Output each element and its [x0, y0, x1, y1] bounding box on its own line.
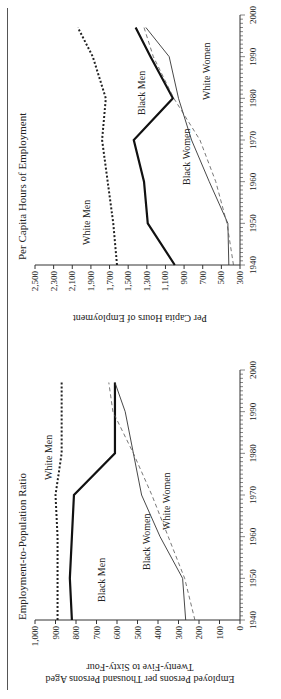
- svg-text:1,700: 1,700: [105, 271, 115, 292]
- axes: 3005007009001,1001,3001,5001,7001,9002,1…: [30, 6, 258, 292]
- svg-text:700: 700: [92, 626, 102, 640]
- svg-text:900: 900: [179, 271, 189, 285]
- svg-text:2,500: 2,500: [30, 271, 40, 292]
- svg-text:Black Men: Black Men: [136, 71, 147, 115]
- chart-title: Employment-to-Population Ratio: [16, 473, 28, 620]
- svg-text:900: 900: [51, 626, 61, 640]
- series-white-men: [56, 383, 62, 621]
- svg-text:Black Women: Black Women: [181, 129, 192, 186]
- svg-text:300: 300: [174, 626, 184, 640]
- svg-text:1970: 1970: [248, 486, 258, 505]
- svg-text:600: 600: [112, 626, 122, 640]
- svg-text:500: 500: [216, 271, 226, 285]
- svg-text:2,100: 2,100: [67, 271, 77, 292]
- y-axis-label: Per Capita Hours of Employment: [73, 313, 207, 324]
- svg-text:500: 500: [133, 626, 143, 640]
- series-white-women: [109, 383, 195, 621]
- svg-text:1940: 1940: [248, 611, 258, 630]
- svg-text:1,500: 1,500: [123, 271, 133, 292]
- svg-text:2000: 2000: [248, 6, 258, 25]
- svg-text:800: 800: [71, 626, 81, 640]
- series-black-men: [134, 28, 175, 266]
- svg-text:1980: 1980: [248, 444, 258, 463]
- svg-text:1,000: 1,000: [30, 626, 40, 647]
- svg-text:White Men: White Men: [43, 435, 54, 480]
- chart-employment-to-population: Employment-to-Population Ratio Employed …: [10, 360, 270, 690]
- svg-text:2000: 2000: [248, 361, 258, 380]
- svg-text:700: 700: [198, 271, 208, 285]
- page-rule: [7, 8, 8, 690]
- svg-text:Twenty-Five to Sixty-Four: Twenty-Five to Sixty-Four: [86, 662, 194, 673]
- chart-per-capita-hours: Per Capita Hours of Employment Per Capit…: [10, 5, 270, 335]
- series-black-women: [115, 383, 186, 621]
- svg-text:1950: 1950: [248, 214, 258, 233]
- svg-text:1980: 1980: [248, 89, 258, 108]
- svg-text:1970: 1970: [248, 131, 258, 150]
- svg-text:1990: 1990: [248, 47, 258, 66]
- svg-text:400: 400: [153, 626, 163, 640]
- svg-text:1940: 1940: [248, 256, 258, 275]
- svg-text:2,300: 2,300: [49, 271, 59, 292]
- svg-text:1990: 1990: [248, 402, 258, 421]
- svg-text:1,900: 1,900: [86, 271, 96, 292]
- svg-text:White Women: White Women: [161, 472, 172, 530]
- axes: 01002003004005006007008009001,0001940195…: [30, 361, 258, 647]
- svg-text:300: 300: [235, 271, 245, 285]
- svg-text:1,300: 1,300: [142, 271, 152, 292]
- svg-text:1960: 1960: [248, 172, 258, 191]
- svg-text:0: 0: [235, 626, 245, 631]
- y-axis-label: Employed Persons per Thousand Persons Ag…: [46, 662, 235, 685]
- chart-title: Per Capita Hours of Employment: [16, 113, 28, 260]
- series-lines: [56, 383, 195, 621]
- svg-text:Black Women: Black Women: [141, 514, 152, 571]
- svg-text:1960: 1960: [248, 527, 258, 546]
- svg-text:White Women: White Women: [201, 42, 212, 100]
- svg-text:200: 200: [194, 626, 204, 640]
- svg-text:Employed Persons per Thousand: Employed Persons per Thousand Persons Ag…: [46, 674, 235, 685]
- svg-text:White Men: White Men: [81, 200, 92, 245]
- series-black-men: [70, 383, 115, 621]
- svg-text:1,100: 1,100: [160, 271, 170, 292]
- svg-text:100: 100: [215, 626, 225, 640]
- svg-text:Black Men: Black Men: [96, 558, 107, 602]
- svg-text:1950: 1950: [248, 569, 258, 588]
